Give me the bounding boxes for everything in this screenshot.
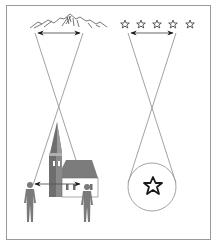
diagram-stage xyxy=(0,0,216,245)
diagram-canvas xyxy=(0,0,216,245)
